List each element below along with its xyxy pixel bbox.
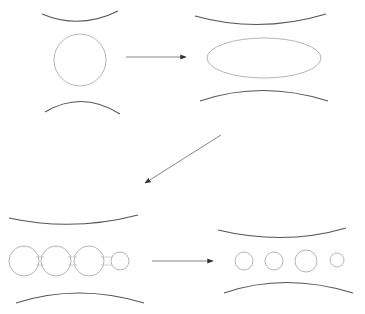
stage-4-separate-droplets	[235, 250, 344, 272]
droplet	[265, 252, 283, 270]
stage-1-circular-drop	[54, 34, 106, 86]
stage-1-panel	[42, 11, 120, 114]
stage-3-wall-bottom	[16, 293, 144, 303]
bead	[9, 246, 39, 276]
stage-2-wall-bottom	[200, 91, 328, 102]
arrow-2-to-3	[145, 135, 221, 183]
bead	[41, 246, 71, 276]
stage-3-panel	[9, 215, 144, 303]
thread-neck	[36, 257, 44, 265]
bead	[111, 252, 129, 270]
stage-4-wall-top	[218, 228, 346, 238]
droplet	[295, 250, 317, 272]
diagram-canvas	[0, 0, 365, 314]
stage-3-beaded-thread	[9, 246, 129, 276]
stage-4-wall-bottom	[224, 283, 353, 294]
bead	[74, 246, 104, 276]
droplet	[330, 253, 344, 267]
stage-2-elliptical-drop	[207, 38, 321, 78]
droplet	[235, 252, 253, 270]
stage-2-panel	[195, 14, 328, 101]
thread-neck	[68, 257, 77, 265]
stage-1-wall-bottom	[45, 101, 120, 114]
stage-4-panel	[218, 228, 353, 293]
transition-arrows	[126, 57, 221, 261]
stage-3-wall-top	[9, 215, 138, 224]
stage-1-wall-top	[42, 11, 118, 21]
stage-2-wall-top	[195, 14, 326, 25]
